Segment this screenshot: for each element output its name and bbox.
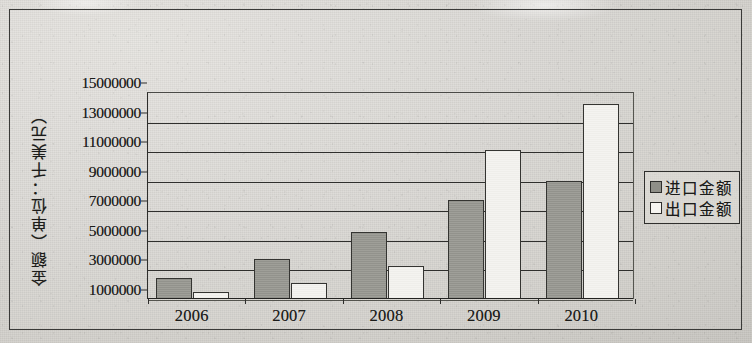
bar-group xyxy=(538,93,635,299)
legend-label-export: 出口金额 xyxy=(665,197,733,219)
x-axis-tick-mark xyxy=(440,299,441,304)
y-axis-tick-label: 15000000 xyxy=(81,74,141,92)
bar-group xyxy=(148,93,245,299)
bar-export xyxy=(485,150,521,299)
x-axis-tick-label: 2010 xyxy=(564,306,598,326)
x-axis-tick-mark xyxy=(635,299,636,304)
bar-group xyxy=(440,93,537,299)
y-axis-tick-label: 7000000 xyxy=(89,192,141,210)
y-axis-tick-label: 9000000 xyxy=(89,163,141,181)
y-axis-tick-label: 5000000 xyxy=(89,222,141,240)
x-axis-line xyxy=(148,298,633,299)
x-axis-tick-label: 2008 xyxy=(370,306,404,326)
bar-import xyxy=(156,278,192,299)
bar-export xyxy=(291,283,327,299)
x-axis-tick-mark xyxy=(245,299,246,304)
legend-swatch-export-icon xyxy=(650,202,662,214)
y-axis-tick-mark xyxy=(141,83,147,84)
x-axis-tick-mark xyxy=(538,299,539,304)
bar-import xyxy=(254,259,290,299)
bar-group xyxy=(245,93,342,299)
legend-item-import: 进口金额 xyxy=(650,176,733,197)
y-axis-tick-label: 3000000 xyxy=(89,251,141,269)
chart-legend: 进口金额 出口金额 xyxy=(644,171,740,224)
plot-area xyxy=(147,92,634,299)
bar-import xyxy=(546,181,582,299)
bar-group xyxy=(343,93,440,299)
bar-import xyxy=(351,232,387,299)
bar-export xyxy=(388,266,424,299)
x-axis-tick-label: 2009 xyxy=(467,306,501,326)
legend-label-import: 进口金额 xyxy=(665,176,733,198)
bar-import xyxy=(448,200,484,299)
legend-item-export: 出口金额 xyxy=(650,197,733,218)
y-axis-tick-label: 11000000 xyxy=(82,133,141,151)
y-axis-tick-labels: 1500000013000000110000009000000700000050… xyxy=(10,10,141,343)
x-axis-tick-labels: 20062007200820092010 xyxy=(147,306,634,336)
y-axis-tick-label: 13000000 xyxy=(81,104,141,122)
bar-export xyxy=(583,104,619,299)
x-axis-tick-label: 2007 xyxy=(272,306,306,326)
x-axis-tick-label: 2006 xyxy=(175,306,209,326)
x-axis-tick-mark xyxy=(148,299,149,304)
legend-swatch-import-icon xyxy=(650,181,662,193)
chart-outer-frame: 金额（单位：千美元） 15000000130000001100000090000… xyxy=(9,9,742,330)
x-axis-tick-mark xyxy=(343,299,344,304)
gridline xyxy=(148,300,633,301)
y-axis-tick-label: 1000000 xyxy=(89,281,141,299)
